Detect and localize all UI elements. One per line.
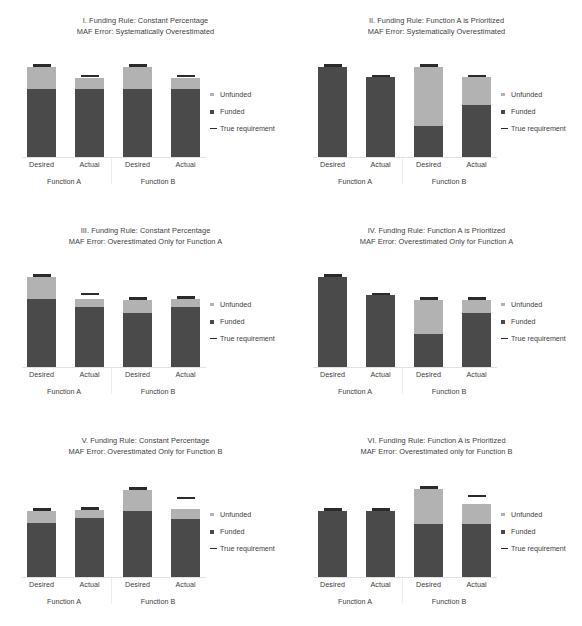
category-label: Actual [359, 370, 403, 379]
stacked-bar [75, 299, 104, 368]
legend-true-requirement-swatch-icon [210, 548, 217, 550]
legend-item-label: True requirement [511, 334, 566, 343]
true-requirement-marker [324, 274, 342, 277]
legend-item-label: Unfunded [220, 510, 251, 519]
legend-true-requirement-swatch-icon [501, 338, 508, 340]
stacked-bar [366, 511, 395, 578]
plot-area [22, 62, 204, 158]
legend-item: Funded [210, 313, 288, 330]
bar-segment-funded [75, 307, 104, 368]
true-requirement-marker [372, 508, 390, 511]
legend-item-label: Funded [511, 527, 535, 536]
bar-segment-funded [366, 511, 395, 578]
legend-item: Unfunded [501, 86, 579, 103]
bar-segment-unfunded [171, 78, 200, 89]
panel-title-line-2: MAF Error: Overestimated only for Functi… [291, 447, 582, 458]
group-label: Function B [406, 177, 492, 186]
panel-ii: II. Funding Rule: Function A is Prioriti… [291, 0, 582, 210]
bar-segment-unfunded [462, 77, 491, 105]
category-label: Desired [116, 580, 160, 589]
true-requirement-marker [33, 64, 51, 67]
legend-item: Unfunded [210, 506, 288, 523]
panel-title-line-1: V. Funding Rule: Constant Percentage [0, 436, 291, 447]
bar-segment-funded [75, 518, 104, 578]
bar-segment-unfunded [171, 509, 200, 520]
stacked-bar-figure-grid: I. Funding Rule: Constant PercentageMAF … [0, 0, 582, 626]
category-axis: DesiredActualDesiredActual [22, 160, 204, 172]
panel-i: I. Funding Rule: Constant PercentageMAF … [0, 0, 291, 210]
true-requirement-marker [129, 297, 147, 300]
plot-area [313, 272, 495, 368]
true-requirement-marker [372, 293, 390, 296]
true-requirement-marker [468, 297, 486, 300]
legend-unfunded-swatch-icon [501, 303, 505, 307]
true-requirement-marker [129, 487, 147, 490]
bar-segment-funded [75, 89, 104, 158]
axis-baseline [313, 367, 497, 368]
legend-item-label: True requirement [511, 124, 566, 133]
stacked-bar [123, 67, 152, 158]
panel-title-line-2: MAF Error: Overestimated Only for Functi… [0, 447, 291, 458]
panel-iii: III. Funding Rule: Constant PercentageMA… [0, 210, 291, 420]
category-label: Actual [164, 580, 208, 589]
bar-segment-funded [462, 524, 491, 578]
bar-segment-unfunded [123, 300, 152, 313]
category-label: Actual [164, 160, 208, 169]
legend: UnfundedFundedTrue requirement [501, 86, 579, 137]
bar-segment-funded [123, 511, 152, 578]
bar-segment-funded [171, 89, 200, 158]
category-label: Actual [455, 370, 499, 379]
category-label: Desired [20, 580, 64, 589]
true-requirement-marker [324, 508, 342, 511]
bar-segment-unfunded [462, 504, 491, 524]
stacked-bar [171, 78, 200, 158]
legend-item: Funded [210, 523, 288, 540]
panel-title: VI. Funding Rule: Function A is Prioriti… [291, 436, 582, 457]
stacked-bar [171, 509, 200, 578]
panel-title-line-2: MAF Error: Overestimated Only for Functi… [291, 237, 582, 248]
bar-segment-funded [171, 519, 200, 578]
bar-segment-unfunded [414, 300, 443, 335]
bar-segment-funded [318, 511, 347, 578]
bar-segment-funded [462, 313, 491, 368]
bar-segment-funded [27, 89, 56, 158]
true-requirement-marker [81, 75, 99, 78]
plot-area [313, 62, 495, 158]
bar-segment-unfunded [171, 299, 200, 307]
category-label: Desired [116, 160, 160, 169]
legend-unfunded-swatch-icon [501, 513, 505, 517]
group-axis: Function AFunction B [313, 597, 495, 609]
stacked-bar [318, 277, 347, 368]
legend-item-label: Unfunded [220, 90, 251, 99]
stacked-bar [171, 299, 200, 368]
legend-item-label: Funded [220, 527, 244, 536]
stacked-bar [27, 277, 56, 368]
legend-funded-swatch-icon [210, 110, 214, 114]
stacked-bar [27, 511, 56, 578]
group-label: Function B [115, 387, 201, 396]
bar-segment-unfunded [414, 489, 443, 525]
true-requirement-marker [81, 293, 99, 296]
legend-item-label: Funded [511, 107, 535, 116]
bar-segment-funded [414, 126, 443, 158]
legend-item: True requirement [210, 330, 288, 347]
true-requirement-marker [420, 297, 438, 300]
true-requirement-marker [177, 296, 195, 299]
bar-segment-funded [414, 334, 443, 368]
category-label: Desired [20, 370, 64, 379]
panel-title-line-2: MAF Error: Systematically Overestimated [291, 27, 582, 38]
group-label: Function B [115, 177, 201, 186]
category-label: Desired [311, 160, 355, 169]
legend: UnfundedFundedTrue requirement [210, 86, 288, 137]
true-requirement-marker [81, 507, 99, 510]
stacked-bar [123, 300, 152, 368]
group-label: Function B [115, 597, 201, 606]
panel-title: I. Funding Rule: Constant PercentageMAF … [0, 16, 291, 37]
legend-item: Funded [501, 103, 579, 120]
legend-funded-swatch-icon [210, 530, 214, 534]
true-requirement-marker [177, 75, 195, 78]
stacked-bar [123, 490, 152, 578]
panel-v: V. Funding Rule: Constant PercentageMAF … [0, 420, 291, 626]
axis-baseline [22, 577, 206, 578]
bar-segment-funded [27, 523, 56, 578]
